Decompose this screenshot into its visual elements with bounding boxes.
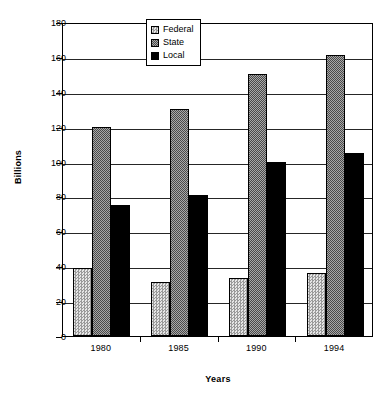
y-tick-mark bbox=[56, 128, 62, 129]
bar-federal-1990 bbox=[229, 278, 248, 336]
y-tick-mark bbox=[56, 267, 62, 268]
bar-state-1994 bbox=[326, 55, 345, 336]
y-tick-mark bbox=[56, 23, 62, 24]
bar-local-1990 bbox=[267, 162, 286, 336]
y-tick-mark bbox=[56, 197, 62, 198]
legend-label-state: State bbox=[163, 38, 184, 47]
x-tick-label: 1980 bbox=[71, 343, 131, 353]
bar-local-1985 bbox=[189, 195, 208, 336]
legend-swatch-local-icon bbox=[151, 52, 159, 60]
x-axis-title: Years bbox=[62, 374, 374, 384]
bar-chart: Billions Years Federal State Local 02040… bbox=[0, 0, 392, 399]
chart-legend: Federal State Local bbox=[146, 19, 201, 66]
bar-federal-1980 bbox=[73, 268, 92, 336]
y-tick-mark bbox=[56, 232, 62, 233]
bar-federal-1994 bbox=[307, 273, 326, 336]
y-tick-mark bbox=[56, 337, 62, 338]
plot-area bbox=[62, 23, 373, 337]
bar-state-1985 bbox=[170, 109, 189, 336]
legend-item-state: State bbox=[151, 36, 194, 49]
x-tick-mark bbox=[140, 337, 141, 342]
y-tick-mark bbox=[56, 163, 62, 164]
legend-item-local: Local bbox=[151, 49, 194, 62]
bar-federal-1985 bbox=[151, 282, 170, 336]
bar-state-1980 bbox=[92, 127, 111, 336]
y-tick-mark bbox=[56, 93, 62, 94]
legend-label-local: Local bbox=[163, 51, 185, 60]
x-tick-label: 1994 bbox=[304, 343, 364, 353]
x-tick-label: 1985 bbox=[149, 343, 209, 353]
y-axis-title: Billions bbox=[13, 137, 23, 197]
x-tick-mark bbox=[295, 337, 296, 342]
y-tick-mark bbox=[56, 302, 62, 303]
legend-label-federal: Federal bbox=[163, 25, 194, 34]
x-tick-mark bbox=[218, 337, 219, 342]
bar-local-1994 bbox=[345, 153, 364, 336]
y-tick-mark bbox=[56, 58, 62, 59]
bar-local-1980 bbox=[111, 205, 130, 336]
legend-swatch-federal-icon bbox=[151, 26, 159, 34]
legend-swatch-state-icon bbox=[151, 39, 159, 47]
legend-item-federal: Federal bbox=[151, 23, 194, 36]
bar-state-1990 bbox=[248, 74, 267, 336]
x-tick-label: 1990 bbox=[226, 343, 286, 353]
